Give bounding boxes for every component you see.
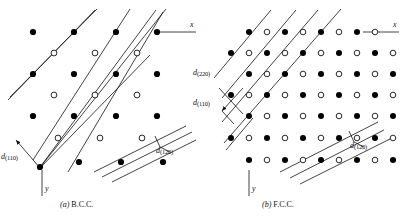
lattice-point-open xyxy=(354,135,360,141)
fcc-x-axis-label: x xyxy=(393,20,397,29)
lattice-point-filled xyxy=(30,29,36,35)
lattice-point-filled xyxy=(246,71,252,77)
lattice-point-open xyxy=(390,135,396,141)
lattice-point-filled xyxy=(318,157,324,163)
lattice-point-open xyxy=(336,157,342,163)
lattice-point-filled xyxy=(154,113,160,119)
bcc-y-axis-label: y xyxy=(45,184,49,193)
lattice-point-filled xyxy=(228,50,234,56)
plane-line-120 xyxy=(112,140,196,182)
lattice-point-open xyxy=(354,92,360,98)
lattice-point-filled xyxy=(154,29,160,35)
lattice-point-filled xyxy=(228,92,234,98)
lattice-point-filled xyxy=(318,71,324,77)
lattice-point-filled xyxy=(76,159,82,165)
lattice-point-filled xyxy=(336,50,342,56)
lattice-point-filled xyxy=(336,92,342,98)
plane-line-220 xyxy=(222,10,318,122)
lattice-point-open xyxy=(390,50,396,56)
fcc-d110-label: d(110) xyxy=(193,98,210,107)
lattice-point-open xyxy=(139,135,145,141)
lattice-point-open xyxy=(282,135,288,141)
lattice-point-open xyxy=(300,113,306,119)
lattice-point-filled xyxy=(354,71,360,77)
lattice-point-open xyxy=(55,135,61,141)
lattice-point-filled xyxy=(228,135,234,141)
lattice-point-open xyxy=(264,29,270,35)
bcc-plane-traces-120 xyxy=(94,126,196,182)
lattice-point-filled xyxy=(71,29,77,35)
lattice-point-filled xyxy=(372,92,378,98)
lattice-point-filled xyxy=(318,113,324,119)
lattice-point-filled xyxy=(390,71,396,77)
panel-fcc xyxy=(214,9,399,196)
fcc-d220-label: d(220) xyxy=(193,68,210,77)
fcc-d110-indices: (110) xyxy=(197,100,210,107)
lattice-point-open xyxy=(372,113,378,119)
lattice-point-filled xyxy=(264,135,270,141)
fcc-plane-traces-120 xyxy=(280,122,390,184)
lattice-point-open xyxy=(92,92,98,98)
fcc-d120-label: d(120) xyxy=(350,141,367,150)
figure-canvas: d(110) d(120) x y d(220) d(110) d(120) x… xyxy=(0,0,408,220)
lattice-point-open xyxy=(354,50,360,56)
lattice-point-filled xyxy=(354,113,360,119)
plane-line-110 xyxy=(224,9,341,143)
caption-bcc-text: B.C.C. xyxy=(71,200,93,209)
lattice-point-filled xyxy=(246,113,252,119)
lattice-point-open xyxy=(282,50,288,56)
lattice-point-filled xyxy=(372,50,378,56)
lattice-point-open xyxy=(51,92,57,98)
lattice-point-open xyxy=(134,50,140,56)
lattice-point-filled xyxy=(300,92,306,98)
lattice-point-open xyxy=(264,71,270,77)
lattice-point-filled xyxy=(264,50,270,56)
lattice-point-open xyxy=(97,135,103,141)
bcc-x-axis-label: x xyxy=(190,20,194,29)
bcc-d120-indices: (120) xyxy=(160,148,173,155)
lattice-point-filled xyxy=(30,113,36,119)
d110-tick-line xyxy=(231,101,243,114)
lattice-point-filled xyxy=(113,71,119,77)
lattice-point-filled xyxy=(71,71,77,77)
caption-bcc-tag: (a) xyxy=(60,200,69,209)
bcc-filled-points xyxy=(30,29,166,170)
lattice-point-filled xyxy=(246,29,252,35)
lattice-point-open xyxy=(246,92,252,98)
caption-fcc: (b) F.C.C. xyxy=(262,200,294,209)
lattice-point-filled xyxy=(113,113,119,119)
lattice-point-open xyxy=(318,92,324,98)
plane-line-120 xyxy=(102,132,192,177)
lattice-point-open xyxy=(372,157,378,163)
lattice-point-filled xyxy=(30,71,36,77)
lattice-point-open xyxy=(372,71,378,77)
plane-line-220 xyxy=(226,118,253,150)
lattice-point-open xyxy=(264,157,270,163)
lattice-point-filled xyxy=(354,29,360,35)
plane-line-110 xyxy=(38,10,156,170)
lattice-point-filled xyxy=(160,159,166,165)
fcc-d220-indices: (220) xyxy=(197,70,210,77)
lattice-point-open xyxy=(282,92,288,98)
lattice-point-open xyxy=(336,71,342,77)
bcc-open-points xyxy=(51,50,145,141)
lattice-point-open xyxy=(51,50,57,56)
lattice-point-filled xyxy=(282,71,288,77)
d110-arrow-line xyxy=(222,101,231,111)
lattice-diagram-svg xyxy=(0,0,408,220)
plane-line-220 xyxy=(214,10,271,78)
lattice-point-filled xyxy=(37,164,43,170)
plane-line-110 xyxy=(68,12,163,172)
lattice-point-open xyxy=(92,50,98,56)
lattice-point-open xyxy=(390,92,396,98)
lattice-point-filled xyxy=(264,92,270,98)
lattice-point-filled xyxy=(354,157,360,163)
lattice-point-filled xyxy=(246,157,252,163)
lattice-point-open xyxy=(264,113,270,119)
lattice-point-filled xyxy=(300,50,306,56)
lattice-point-filled xyxy=(154,71,160,77)
lattice-point-filled xyxy=(282,29,288,35)
lattice-point-open xyxy=(336,29,342,35)
lattice-point-open xyxy=(336,113,342,119)
lattice-point-open xyxy=(318,135,324,141)
